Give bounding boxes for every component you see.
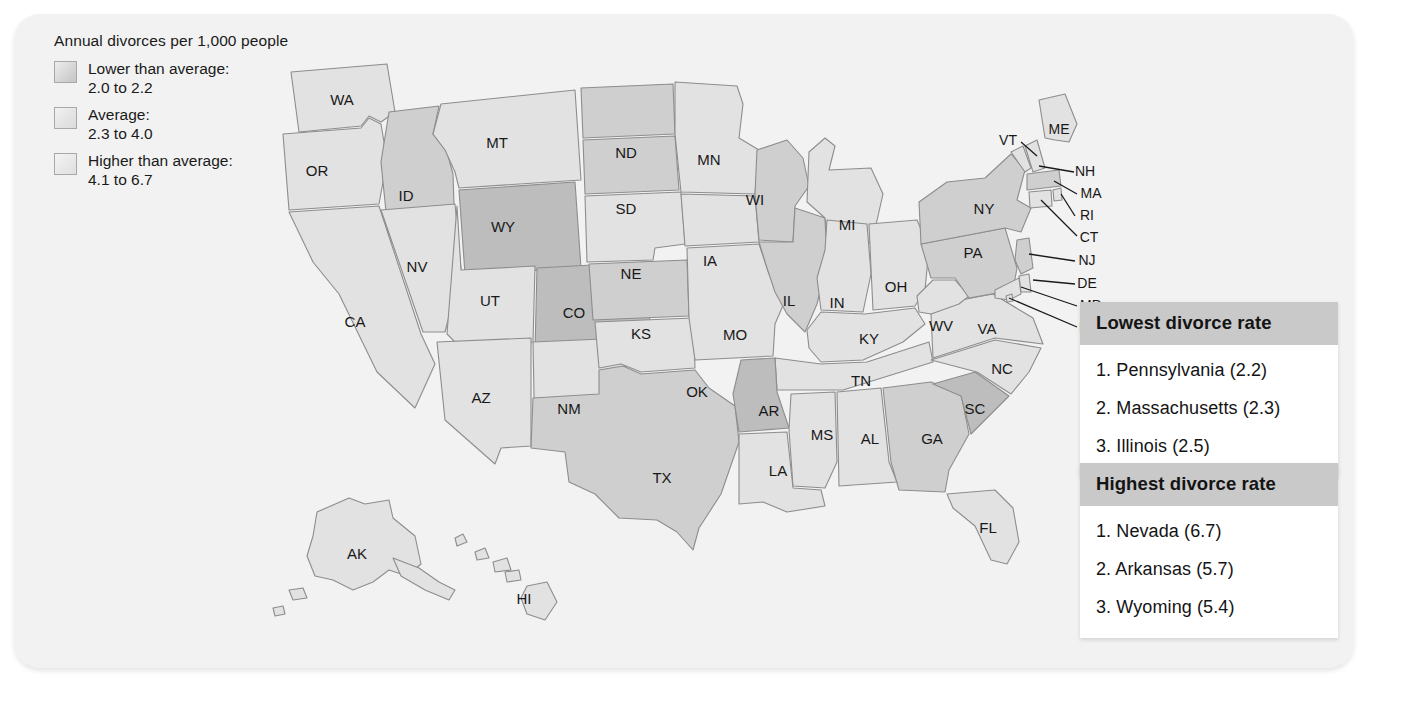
list-item: 1. Pennsylvania (2.2) xyxy=(1096,351,1322,389)
state-label-AR: AR xyxy=(759,402,780,419)
state-ND xyxy=(581,84,675,138)
list-item: 2. Arkansas (5.7) xyxy=(1096,550,1322,588)
state-label-MI: MI xyxy=(839,216,856,233)
legend-swatch-higher-icon xyxy=(54,153,77,175)
state-label-NH: NH xyxy=(1075,163,1095,179)
state-label-IL: IL xyxy=(783,292,796,309)
state-label-UT: UT xyxy=(480,292,500,309)
state-label-FL: FL xyxy=(979,519,997,536)
figure-card: WAORIDMTNDSDNEKSMNIAMOWIILMIINOHKYTNWVVA… xyxy=(14,14,1354,668)
us-states-svg: WAORIDMTNDSDNEKSMNIAMOWIILMIINOHKYTNWVVA… xyxy=(269,42,1149,642)
state-NJ xyxy=(1015,238,1033,274)
legend-item-higher: Higher than average: 4.1 to 6.7 xyxy=(54,151,374,189)
state-label-AL: AL xyxy=(861,430,879,447)
legend-item-lower: Lower than average: 2.0 to 2.2 xyxy=(54,59,374,97)
alaska-islands xyxy=(273,588,307,616)
highest-table-body: 1. Nevada (6.7) 2. Arkansas (5.7) 3. Wyo… xyxy=(1080,506,1338,638)
map-legend: Annual divorces per 1,000 people Lower t… xyxy=(54,32,374,197)
state-MA xyxy=(1027,170,1061,190)
state-label-OK: OK xyxy=(686,383,708,400)
state-label-RI: RI xyxy=(1080,207,1094,223)
state-label-AK: AK xyxy=(347,545,367,562)
legend-item-average: Average: 2.3 to 4.0 xyxy=(54,105,374,143)
state-label-SC: SC xyxy=(965,400,986,417)
state-label-KY: KY xyxy=(859,330,879,347)
legend-lower-line2: 2.0 to 2.2 xyxy=(88,79,153,96)
legend-higher-line2: 4.1 to 6.7 xyxy=(88,171,153,188)
hawaii-2 xyxy=(475,548,489,560)
state-label-CO: CO xyxy=(563,304,586,321)
state-HI xyxy=(455,534,467,546)
leader-CT xyxy=(1041,200,1077,236)
legend-higher-line1: Higher than average: xyxy=(88,152,233,169)
legend-average-line1: Average: xyxy=(88,106,150,123)
alaska-panhandle xyxy=(393,558,455,600)
leader-RI xyxy=(1061,194,1075,216)
state-label-IA: IA xyxy=(703,252,717,269)
state-label-HI: HI xyxy=(517,590,532,607)
state-label-ND: ND xyxy=(615,144,637,161)
list-item: 1. Nevada (6.7) xyxy=(1096,512,1322,550)
list-item: 3. Illinois (2.5) xyxy=(1096,427,1322,465)
highest-divorce-rate-table: Highest divorce rate 1. Nevada (6.7) 2. … xyxy=(1080,463,1338,638)
state-label-GA: GA xyxy=(921,430,943,447)
state-label-KS: KS xyxy=(631,325,651,342)
list-item: 3. Wyoming (5.4) xyxy=(1096,588,1322,626)
state-label-VT: VT xyxy=(999,132,1017,148)
state-label-ME: ME xyxy=(1049,121,1070,137)
state-label-AZ: AZ xyxy=(471,389,490,406)
leader-MD xyxy=(1021,287,1077,306)
lowest-divorce-rate-table: Lowest divorce rate 1. Pennsylvania (2.2… xyxy=(1080,302,1338,477)
hawaii-4 xyxy=(505,570,521,582)
legend-swatch-lower-icon xyxy=(54,61,77,83)
state-label-WY: WY xyxy=(491,218,515,235)
list-item: 2. Massachusetts (2.3) xyxy=(1096,389,1322,427)
state-label-NC: NC xyxy=(991,360,1013,377)
legend-average-line2: 2.3 to 4.0 xyxy=(88,125,153,142)
hawaii-3 xyxy=(493,558,511,572)
state-label-PA: PA xyxy=(964,244,983,261)
state-label-NE: NE xyxy=(621,265,642,282)
state-label-WV: WV xyxy=(929,317,953,334)
state-label-MA: MA xyxy=(1081,185,1103,201)
state-label-TX: TX xyxy=(652,469,671,486)
legend-label-lower: Lower than average: 2.0 to 2.2 xyxy=(88,59,229,97)
lowest-table-body: 1. Pennsylvania (2.2) 2. Massachusetts (… xyxy=(1080,345,1338,477)
state-label-IN: IN xyxy=(830,294,845,311)
legend-swatch-average-icon xyxy=(54,107,77,129)
state-MN xyxy=(675,82,759,194)
state-label-TN: TN xyxy=(851,372,871,389)
state-label-MN: MN xyxy=(697,151,720,168)
state-label-LA: LA xyxy=(769,462,787,479)
leader-NJ xyxy=(1029,254,1075,261)
lowest-table-header: Lowest divorce rate xyxy=(1080,302,1338,345)
state-label-MS: MS xyxy=(811,426,834,443)
state-label-OH: OH xyxy=(885,278,908,295)
legend-title: Annual divorces per 1,000 people xyxy=(54,32,374,50)
state-label-NY: NY xyxy=(974,200,995,217)
state-label-DE: DE xyxy=(1077,275,1096,291)
state-label-NM: NM xyxy=(557,400,580,417)
state-label-WI: WI xyxy=(746,191,764,208)
state-label-ID: ID xyxy=(399,187,414,204)
legend-label-higher: Higher than average: 4.1 to 6.7 xyxy=(88,151,233,189)
state-label-CA: CA xyxy=(345,313,366,330)
state-label-MO: MO xyxy=(723,326,747,343)
state-label-MT: MT xyxy=(486,134,508,151)
leader-DE xyxy=(1033,280,1075,284)
state-label-SD: SD xyxy=(616,200,637,217)
state-label-CT: CT xyxy=(1080,229,1099,245)
highest-table-header: Highest divorce rate xyxy=(1080,463,1338,506)
state-label-NJ: NJ xyxy=(1078,252,1095,268)
state-label-VA: VA xyxy=(978,320,997,337)
legend-label-average: Average: 2.3 to 4.0 xyxy=(88,105,153,143)
state-label-NV: NV xyxy=(407,258,428,275)
legend-lower-line1: Lower than average: xyxy=(88,60,229,77)
state-WY xyxy=(459,182,581,274)
state-CT xyxy=(1029,190,1052,208)
